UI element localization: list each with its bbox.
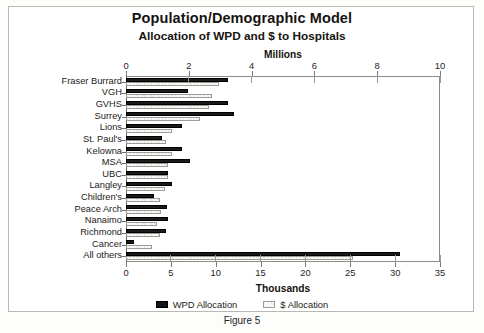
- bar-rows: [126, 76, 440, 262]
- chart-row: [126, 88, 440, 100]
- bottom-axis-tick-label: 10: [196, 267, 236, 278]
- top-axis-tick-label: 2: [169, 60, 209, 71]
- bar-wpd-allocation: [126, 78, 228, 82]
- category-label: Kelowna: [20, 146, 122, 156]
- bar-dollar-allocation: [126, 152, 172, 156]
- chart-row: [126, 250, 440, 262]
- bar-dollar-allocation: [126, 175, 168, 179]
- legend-item: $ Allocation: [263, 299, 328, 310]
- bar-wpd-allocation: [126, 147, 182, 151]
- bar-dollar-allocation: [126, 117, 200, 121]
- legend-swatch-dollar: [263, 301, 275, 308]
- category-label: GVHS: [20, 99, 122, 109]
- bar-dollar-allocation: [126, 210, 161, 214]
- bar-dollar-allocation: [126, 198, 160, 202]
- legend-label: WPD Allocation: [173, 299, 238, 310]
- bar-wpd-allocation: [126, 205, 167, 209]
- bar-wpd-allocation: [126, 171, 168, 175]
- category-label: Cancer: [20, 239, 122, 249]
- top-gridline-stub: [377, 76, 378, 83]
- chart-row: [126, 146, 440, 158]
- chart-row: [126, 204, 440, 216]
- chart-row: [126, 134, 440, 146]
- plot-area: [126, 76, 440, 262]
- top-axis-tick-label: 10: [420, 60, 460, 71]
- bar-wpd-allocation: [126, 194, 154, 198]
- bar-wpd-allocation: [126, 101, 228, 105]
- chart-row: [126, 99, 440, 111]
- category-label: Langley: [20, 180, 122, 190]
- bar-dollar-allocation: [126, 222, 157, 226]
- bar-dollar-allocation: [126, 82, 219, 86]
- category-label: All others: [20, 250, 122, 260]
- top-axis-tick-label: 8: [357, 60, 397, 71]
- legend-item: WPD Allocation: [156, 299, 238, 310]
- bottom-axis-ticks: 05101520253035: [126, 262, 440, 280]
- bar-dollar-allocation: [126, 105, 209, 109]
- chart-row: [126, 239, 440, 251]
- chart-row: [126, 192, 440, 204]
- bar-wpd-allocation: [126, 136, 162, 140]
- chart-row: [126, 216, 440, 228]
- figure-caption: Figure 5: [0, 315, 484, 326]
- category-label: MSA: [20, 157, 122, 167]
- bar-wpd-allocation: [126, 159, 190, 163]
- bar-dollar-allocation: [126, 256, 353, 260]
- bottom-axis-tick-label: 5: [151, 267, 191, 278]
- bottom-gridline-stub: [350, 255, 351, 262]
- bottom-axis-tick-label: 30: [375, 267, 415, 278]
- bottom-gridline-stub: [215, 255, 216, 262]
- top-gridline-stub: [314, 76, 315, 83]
- category-label: Surrey: [20, 111, 122, 121]
- chart-subtitle: Allocation of WPD and $ to Hospitals: [0, 29, 484, 44]
- category-label: UBC: [20, 169, 122, 179]
- bottom-axis-tick-label: 25: [330, 267, 370, 278]
- bar-dollar-allocation: [126, 187, 165, 191]
- bar-wpd-allocation: [126, 252, 400, 256]
- bottom-gridline-stub: [305, 255, 306, 262]
- bottom-gridline-stub: [440, 255, 441, 262]
- category-label: VGH: [20, 87, 122, 97]
- bottom-axis-title: Thousands: [126, 283, 440, 294]
- bar-wpd-allocation: [126, 89, 188, 93]
- bar-wpd-allocation: [126, 182, 172, 186]
- category-label: St. Paul's: [20, 134, 122, 144]
- bar-wpd-allocation: [126, 229, 166, 233]
- bar-wpd-allocation: [126, 217, 168, 221]
- category-label: Lions: [20, 122, 122, 132]
- category-label: Children's: [20, 192, 122, 202]
- bar-dollar-allocation: [126, 140, 166, 144]
- bottom-gridline-stub: [260, 255, 261, 262]
- bottom-gridline-stub: [395, 255, 396, 262]
- category-label: Fraser Burrard: [20, 76, 122, 86]
- legend-swatch-wpd: [156, 301, 168, 308]
- title-block: Population/Demographic Model Allocation …: [0, 10, 484, 44]
- bar-wpd-allocation: [126, 124, 182, 128]
- bar-wpd-allocation: [126, 112, 234, 116]
- bar-dollar-allocation: [126, 94, 212, 98]
- top-axis-tick-label: 4: [232, 60, 272, 71]
- bottom-axis-tick-label: 0: [106, 267, 146, 278]
- top-axis-tick-label: 0: [106, 60, 146, 71]
- chart-title: Population/Demographic Model: [0, 10, 484, 27]
- category-label: Nanaimo: [20, 215, 122, 225]
- figure-page: Population/Demographic Model Allocation …: [0, 0, 484, 333]
- chart-row: [126, 157, 440, 169]
- bottom-axis-tick-label: 35: [420, 267, 460, 278]
- category-label: Richmond: [20, 227, 122, 237]
- bottom-axis-tick-label: 15: [241, 267, 281, 278]
- category-axis-labels: Fraser BurrardVGHGVHSSurreyLionsSt. Paul…: [20, 76, 122, 262]
- bottom-gridline-stub: [170, 255, 171, 262]
- top-axis-ticks: 0246810: [126, 62, 440, 76]
- top-gridline-stub: [251, 76, 252, 83]
- top-axis-title: Millions: [126, 49, 440, 60]
- top-gridline-stub: [440, 76, 441, 83]
- category-label: Peace Arch: [20, 204, 122, 214]
- bar-dollar-allocation: [126, 245, 152, 249]
- bar-dollar-allocation: [126, 163, 168, 167]
- bar-dollar-allocation: [126, 233, 160, 237]
- chart-row: [126, 227, 440, 239]
- chart-row: [126, 181, 440, 193]
- bar-dollar-allocation: [126, 129, 172, 133]
- chart-row: [126, 111, 440, 123]
